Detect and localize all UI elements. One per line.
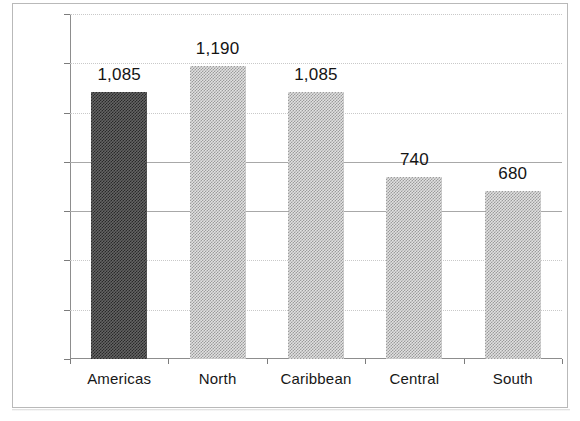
x-axis-tick (168, 359, 169, 364)
x-axis-category-labels: AmericasNorthCaribbeanCentralSouth (70, 370, 562, 394)
bar-south[interactable] (485, 191, 541, 359)
scan-edge-shadow (12, 409, 570, 411)
bar-value-label: 1,190 (168, 40, 268, 57)
x-axis-tick (562, 359, 563, 364)
x-axis-tick (70, 359, 71, 364)
bar-value-label: 740 (364, 151, 464, 168)
x-axis-tick (464, 359, 465, 364)
bar-fill (288, 92, 344, 359)
bar-fill (91, 92, 147, 359)
x-axis-tick (267, 359, 268, 364)
bar-value-label: 1,085 (266, 66, 366, 83)
bar-value-label: 680 (463, 165, 563, 182)
bar-value-label: 1,085 (69, 66, 169, 83)
bar-americas[interactable] (91, 92, 147, 359)
category-label-south: South (453, 370, 573, 388)
plot-area: 1,0851,1901,085740680 (70, 14, 562, 359)
bar-fill (386, 177, 442, 359)
bar-fill (190, 66, 246, 359)
bar-north[interactable] (190, 66, 246, 359)
bar-fill (485, 191, 541, 359)
bar-central[interactable] (386, 177, 442, 359)
bar-caribbean[interactable] (288, 92, 344, 359)
x-axis-tick (365, 359, 366, 364)
bar-chart-figure: 1,0851,1901,085740680 020040060080010001… (0, 0, 580, 421)
